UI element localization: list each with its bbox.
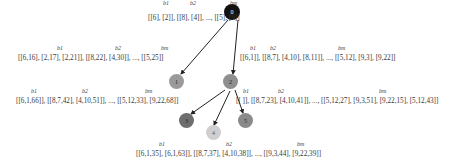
node-label: 5 (244, 118, 247, 124)
annotation-text: [[6,1,66]], [[8,7,42], [4,10,51]], ..., … (16, 97, 178, 105)
node-label: 3 (185, 118, 188, 124)
bucket-header-b2: b2 (115, 45, 121, 51)
bucket-header-bm: bm (145, 88, 152, 94)
bucket-header-bm: bm (338, 45, 345, 51)
annotation-text: [[6], [2]], [[8], [4]], ..., [[5], [9]] (148, 14, 240, 22)
bucket-header-b2: b2 (190, 0, 196, 6)
tree-node-2: 2 (223, 74, 238, 89)
bucket-header-b1: b1 (159, 141, 165, 147)
bucket-header-b2: b2 (270, 45, 276, 51)
bucket-header-b1: b1 (250, 45, 256, 51)
edge-0-2 (226, 20, 236, 74)
bucket-header-b2: b2 (82, 88, 88, 94)
annotation-text: [[6,1,35], [6,1,63]], [[8,7,37], [4,10,3… (136, 150, 321, 158)
edge-2-3 (191, 90, 225, 114)
tree-node-5: 5 (238, 113, 253, 128)
tree-node-3: 3 (179, 113, 194, 128)
bucket-header-b2: b2 (278, 88, 284, 94)
annotation-text: [[6,1]], [[8,7], [4,10], [8,11]], ..., [… (240, 54, 395, 62)
node-label: 2 (229, 79, 232, 85)
node-label: 1 (175, 79, 178, 85)
edge-0-1 (181, 20, 228, 74)
bucket-header-bm: bm (297, 141, 304, 147)
bucket-header-bm: bm (230, 0, 237, 6)
bucket-header-b1: b1 (31, 88, 37, 94)
bucket-header-bm: bm (161, 45, 168, 51)
annotation-text: [[6,16], [2,17], [2,21]], [[8,22], [4,30… (18, 54, 164, 62)
bucket-header-bm: bm (379, 88, 386, 94)
annotation-text: [[ ]], [[8,7,23], [4,10,41]], ..., [[5,1… (236, 97, 438, 105)
bucket-header-b1: b1 (57, 45, 63, 51)
node-label: 4 (212, 130, 215, 136)
bucket-header-b2: b2 (226, 141, 232, 147)
tree-node-4: 4 (206, 125, 221, 140)
bucket-header-b1: b1 (163, 0, 169, 6)
tree-node-1: 1 (169, 74, 184, 89)
bucket-header-b1: b1 (243, 88, 249, 94)
